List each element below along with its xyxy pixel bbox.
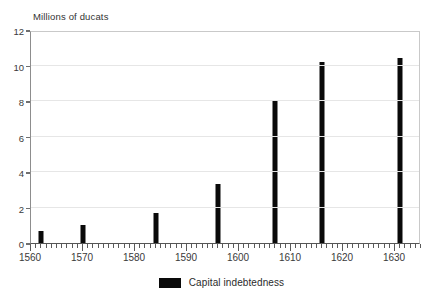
x-axis-tick-1612 (300, 244, 301, 248)
x-axis-tick-1610 (290, 244, 291, 251)
x-axis-tick-1574 (103, 244, 104, 248)
gridline-y-10 (31, 65, 419, 66)
x-axis-tick-1567 (66, 244, 67, 248)
x-axis-tick-1635 (420, 244, 421, 248)
x-axis-tick-1606 (269, 244, 270, 248)
x-axis-tick-1629 (389, 244, 390, 248)
x-axis-tick-1602 (248, 244, 249, 248)
x-axis-tick-1591 (191, 244, 192, 248)
x-axis-tick-1572 (92, 244, 93, 248)
x-axis-tick-1594 (207, 244, 208, 248)
y-axis-label-0: 0 (0, 239, 24, 250)
y-axis-label-10: 10 (0, 61, 24, 72)
x-axis-tick-1583 (150, 244, 151, 248)
legend-label-capital-indebtedness: Capital indebtedness (189, 277, 284, 288)
x-axis-tick-1624 (363, 244, 364, 248)
x-axis-tick-1613 (306, 244, 307, 248)
x-axis-tick-1590 (186, 244, 187, 251)
gridline-y-4 (31, 171, 419, 172)
bar-1631 (398, 58, 403, 243)
x-axis-label-1590: 1590 (175, 252, 197, 263)
x-axis-tick-1627 (378, 244, 379, 248)
x-axis-tick-1588 (176, 244, 177, 248)
x-axis-tick-1628 (384, 244, 385, 248)
x-axis-tick-1621 (347, 244, 348, 248)
x-axis-tick-1576 (113, 244, 114, 248)
x-axis-tick-1560 (30, 244, 31, 251)
x-axis-tick-1599 (233, 244, 234, 248)
x-axis-tick-1592 (196, 244, 197, 248)
x-axis-label-1600: 1600 (227, 252, 249, 263)
x-axis-tick-1593 (202, 244, 203, 248)
y-axis-tick-12 (26, 30, 30, 31)
x-axis-tick-1605 (264, 244, 265, 248)
x-axis-label-1620: 1620 (331, 252, 353, 263)
x-axis-tick-1577 (118, 244, 119, 248)
bar-1596 (216, 184, 221, 243)
x-axis-tick-1587 (170, 244, 171, 248)
x-axis-tick-1626 (373, 244, 374, 248)
bar-1570 (81, 225, 86, 243)
x-axis-tick-1569 (77, 244, 78, 248)
legend-swatch-capital-indebtedness (159, 278, 181, 288)
x-axis-tick-1631 (399, 244, 400, 248)
x-axis-tick-1563 (46, 244, 47, 248)
y-axis-tick-8 (26, 101, 30, 102)
x-axis-label-1610: 1610 (279, 252, 301, 263)
gridline-y-8 (31, 100, 419, 101)
x-axis-tick-1585 (160, 244, 161, 248)
x-axis-tick-1579 (129, 244, 130, 248)
x-axis-tick-1582 (144, 244, 145, 248)
x-axis-tick-1575 (108, 244, 109, 248)
x-axis-tick-1597 (222, 244, 223, 248)
x-axis-tick-1584 (155, 244, 156, 248)
x-axis-tick-1561 (35, 244, 36, 248)
x-axis-tick-1609 (285, 244, 286, 248)
x-axis-tick-1604 (259, 244, 260, 248)
x-axis-tick-1634 (415, 244, 416, 248)
y-axis-label-4: 4 (0, 168, 24, 179)
x-axis-tick-1620 (342, 244, 343, 251)
x-axis-tick-1589 (181, 244, 182, 248)
x-axis-tick-1565 (56, 244, 57, 248)
y-axis-label-8: 8 (0, 97, 24, 108)
chart-legend: Capital indebtedness (0, 277, 443, 288)
x-axis-tick-1615 (316, 244, 317, 248)
x-axis-tick-1619 (337, 244, 338, 248)
x-axis-label-1570: 1570 (71, 252, 93, 263)
x-axis-tick-1633 (410, 244, 411, 248)
gridline-y-2 (31, 207, 419, 208)
x-axis-tick-1625 (368, 244, 369, 248)
x-axis-tick-1564 (51, 244, 52, 248)
x-axis-tick-1595 (212, 244, 213, 248)
y-axis-tick-2 (26, 208, 30, 209)
x-axis-tick-1611 (295, 244, 296, 248)
x-axis-tick-1598 (228, 244, 229, 248)
chart-container: Millions of ducats 024681012 15601570158… (0, 0, 443, 307)
x-axis-tick-1580 (134, 244, 135, 251)
x-axis-tick-1581 (139, 244, 140, 248)
x-axis-tick-1586 (165, 244, 166, 248)
x-axis-tick-1614 (311, 244, 312, 248)
y-axis-tick-10 (26, 66, 30, 67)
y-axis-tick-4 (26, 172, 30, 173)
x-axis-tick-1623 (358, 244, 359, 248)
x-axis-tick-1617 (326, 244, 327, 248)
x-axis-tick-1573 (98, 244, 99, 248)
x-axis-label-1630: 1630 (383, 252, 405, 263)
x-axis-tick-1608 (280, 244, 281, 248)
x-axis-tick-1622 (352, 244, 353, 248)
gridline-y-6 (31, 136, 419, 137)
x-axis-tick-1630 (394, 244, 395, 251)
bar-1616 (320, 62, 325, 243)
bar-1562 (39, 231, 44, 243)
x-axis-tick-1568 (72, 244, 73, 248)
x-axis-tick-1618 (332, 244, 333, 248)
x-axis-tick-1562 (40, 244, 41, 248)
x-axis-tick-1570 (82, 244, 83, 251)
x-axis-label-1580: 1580 (123, 252, 145, 263)
y-axis-label-12: 12 (0, 26, 24, 37)
x-axis-tick-1601 (243, 244, 244, 248)
x-axis-tick-1596 (217, 244, 218, 248)
plot-area (30, 31, 420, 244)
